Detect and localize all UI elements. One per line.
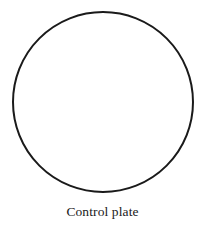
petri-dish-circle-outline: [13, 12, 193, 192]
control-plate-figure: Control plate: [0, 0, 205, 232]
figure-caption: Control plate: [0, 203, 205, 221]
control-plate-diagram: [0, 0, 205, 205]
